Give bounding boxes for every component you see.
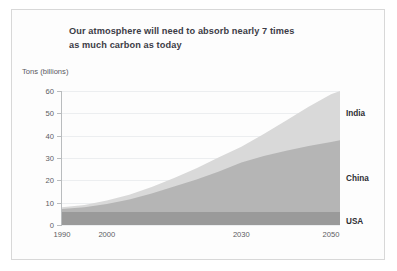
stacked-area-series bbox=[62, 91, 340, 225]
y-tick-label: 20 bbox=[46, 176, 54, 185]
x-tick-label: 2030 bbox=[233, 230, 250, 239]
x-tick-label: 2000 bbox=[98, 230, 115, 239]
x-tick-label: 1990 bbox=[54, 230, 71, 239]
series-label-china: China bbox=[346, 174, 369, 183]
y-tick-label: 0 bbox=[50, 221, 54, 230]
y-axis-label: Tons (billions) bbox=[22, 67, 68, 76]
chart-title-line-2: as much carbon as today bbox=[69, 38, 369, 52]
chart-title-line-1: Our atmosphere will need to absorb nearl… bbox=[69, 24, 369, 38]
y-tick-label: 30 bbox=[46, 154, 54, 163]
y-tick-label: 40 bbox=[46, 131, 54, 140]
series-label-india: India bbox=[346, 109, 365, 118]
chart-title: Our atmosphere will need to absorb nearl… bbox=[69, 24, 369, 52]
y-tick-label: 10 bbox=[46, 198, 54, 207]
y-tick-mark bbox=[57, 225, 62, 226]
series-label-usa: USA bbox=[346, 216, 363, 225]
gridline bbox=[62, 225, 340, 226]
y-tick-label: 60 bbox=[46, 87, 54, 96]
y-tick-label: 50 bbox=[46, 109, 54, 118]
plot-area: 0102030405060 1990200020302050 bbox=[62, 91, 340, 225]
area-usa bbox=[62, 212, 340, 225]
x-tick-label: 2050 bbox=[323, 230, 340, 239]
chart-figure: Our atmosphere will need to absorb nearl… bbox=[11, 9, 385, 260]
